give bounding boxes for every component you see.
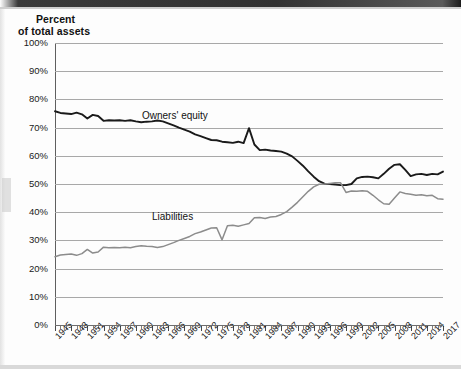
y-tick-label-20: 20% (8, 263, 48, 274)
y-tick-label-100: 100% (8, 37, 48, 48)
y-tick-label-80: 80% (8, 93, 48, 104)
y-tick-label-90: 90% (8, 65, 48, 76)
series-line-liabilities (55, 183, 443, 257)
y-tick-label-70: 70% (8, 122, 48, 133)
series-lines (55, 43, 443, 325)
y-tick-label-40: 40% (8, 206, 48, 217)
y-tick-label-50: 50% (8, 178, 48, 189)
scan-artifact-bottom-bar (0, 365, 461, 369)
y-tick-label-60: 60% (8, 150, 48, 161)
series-label-liabilities: Liabilities (152, 211, 193, 222)
scan-artifact-top-shadow (0, 7, 461, 9)
gridline-0 (55, 325, 443, 326)
y-tick-label-30: 30% (8, 234, 48, 245)
y-axis-title-line2: of total assets (18, 25, 90, 37)
y-axis-title-line1: Percent (36, 13, 75, 25)
y-tick-label-10: 10% (8, 291, 48, 302)
y-tick-label-0: 0% (8, 319, 48, 330)
series-label-owners-equity: Owners' equity (142, 110, 208, 121)
scan-artifact-top-bar (0, 0, 461, 7)
series-line-owners-equity (55, 111, 443, 185)
plot-area (55, 43, 443, 325)
x-tick-label-2017: 2017 (441, 320, 461, 341)
chart-figure: Percent of total assets 0%10%20%30%40%50… (0, 0, 461, 369)
